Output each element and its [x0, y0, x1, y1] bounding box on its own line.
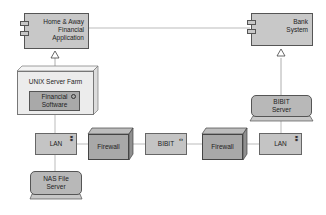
firewall-right-node[interactable]: Firewall: [202, 134, 243, 160]
bibit-server-node[interactable]: BIBIT Server: [251, 95, 312, 117]
firewall-left-node[interactable]: Firewall: [88, 134, 129, 160]
bibit-interface-node[interactable]: ‹› BIBIT: [145, 133, 187, 155]
component-port-icon: [247, 20, 256, 25]
lan-right-node[interactable]: ⁑ LAN: [259, 133, 302, 155]
component-label: Bank System: [286, 18, 308, 34]
component-label: Home & Away Financial Application: [43, 18, 84, 41]
financial-software-artifact[interactable]: Financial Software: [29, 91, 80, 111]
component-port-icon: [20, 31, 29, 36]
nas-file-server-node[interactable]: NAS File Server: [30, 171, 82, 195]
component-port-icon: [247, 29, 256, 34]
node-label: UNIX Server Farm: [18, 78, 93, 86]
deployment-diagram: Home & Away Financial Application Bank S…: [0, 0, 326, 215]
home-away-financial-app-component[interactable]: Home & Away Financial Application: [24, 13, 89, 49]
bank-system-component[interactable]: Bank System: [251, 13, 313, 46]
artifact-icon: [71, 94, 76, 99]
network-icon: ⁑: [295, 136, 298, 143]
component-port-icon: [20, 21, 29, 26]
lan-left-node[interactable]: ⁑ LAN: [35, 133, 77, 155]
interface-icon: ‹›: [179, 136, 183, 143]
unix-server-farm-node[interactable]: UNIX Server Farm Financial Software: [17, 71, 94, 115]
network-icon: ⁑: [70, 136, 73, 143]
